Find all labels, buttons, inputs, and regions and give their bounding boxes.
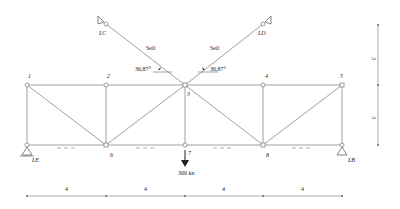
node-label-1: 1 <box>28 73 31 79</box>
node-7 <box>183 143 187 147</box>
dim-h-1: 4 <box>65 186 68 192</box>
pin-support-LB-icon <box>337 147 347 155</box>
pin-support-LC-icon <box>98 16 104 24</box>
member-diagonal-6-3 <box>106 85 185 145</box>
support-label-LC: LC <box>98 30 107 36</box>
node-label-2: 2 <box>107 73 110 79</box>
node-LC <box>104 22 108 26</box>
node-label-6: 6 <box>110 152 113 158</box>
node-5 <box>340 83 344 87</box>
dim-v-1: 3 <box>371 57 377 60</box>
node-6 <box>104 143 108 147</box>
load-arrow-icon <box>181 160 189 167</box>
node-label-7: 7 <box>188 150 192 156</box>
node-8 <box>261 143 265 147</box>
member-diagonal-8-5 <box>263 85 342 145</box>
dim-h-3: 4 <box>222 186 225 192</box>
truss-diagram: 1 2 3 4 5 6 7 8 LE LB LC LD Seil Seil 36… <box>0 0 400 209</box>
angle-arrow-right-icon <box>202 67 205 70</box>
cable-left-angle: 36,87° <box>135 66 152 72</box>
node-label-3: 3 <box>186 91 190 97</box>
cable-right-label: Seil <box>210 45 220 51</box>
node-label-5: 5 <box>340 73 343 79</box>
node-label-8: 8 <box>266 152 269 158</box>
cable-right-angle: 36,87° <box>210 66 227 72</box>
dim-h-2: 4 <box>144 186 147 192</box>
cable-left <box>106 24 185 85</box>
member-diagonal-3-8 <box>185 85 263 145</box>
node-3 <box>183 83 187 87</box>
dim-v-2: 3 <box>371 116 377 119</box>
node-1 <box>25 83 29 87</box>
dim-h-4: 4 <box>301 186 304 192</box>
angle-arrow-left-icon <box>158 67 161 70</box>
node-2 <box>104 83 108 87</box>
support-label-LB: LB <box>347 157 355 163</box>
node-LD <box>261 22 265 26</box>
node-4 <box>261 83 265 87</box>
load-label: 300 kn <box>178 170 195 176</box>
support-label-LD: LD <box>257 30 266 36</box>
member-diagonal-1-6 <box>27 85 106 145</box>
pin-support-LE-icon <box>22 147 32 155</box>
cable-right <box>185 24 263 85</box>
pin-support-LD-icon <box>265 16 271 24</box>
node-label-4: 4 <box>265 73 268 79</box>
cable-left-label: Seil <box>146 45 156 51</box>
support-label-LE: LE <box>31 157 39 163</box>
